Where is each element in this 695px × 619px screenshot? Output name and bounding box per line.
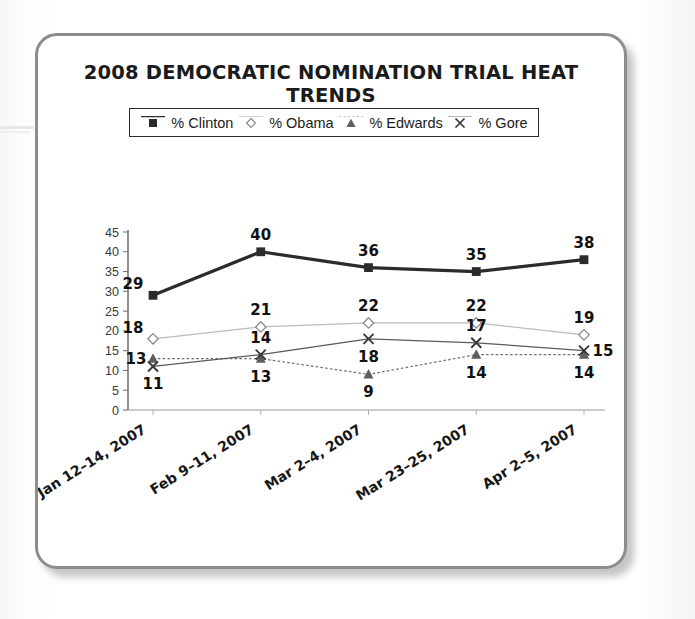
y-tick-label: 15 xyxy=(105,344,119,358)
y-tick-label: 40 xyxy=(105,245,119,259)
y-tick-label: 20 xyxy=(105,324,119,338)
y-tick-label: 10 xyxy=(105,364,119,378)
y-tick-label: 45 xyxy=(105,226,119,240)
data-value-label: 22 xyxy=(358,297,379,315)
data-point-marker xyxy=(579,330,589,340)
y-tick-label: 25 xyxy=(105,305,119,319)
data-value-label: 35 xyxy=(466,246,487,264)
series-value-labels: 1821222219 xyxy=(123,297,595,337)
scan-artifact-secondary xyxy=(0,131,30,133)
x-tick-label: Mar 2–4, 2007 xyxy=(262,421,364,493)
data-value-label: 36 xyxy=(358,242,379,260)
data-value-label: 21 xyxy=(250,301,271,319)
data-point-marker xyxy=(364,263,373,272)
data-value-label: 40 xyxy=(250,226,271,244)
plot-area: 051015202530354045Jan 12–14, 2007Feb 9–1… xyxy=(38,36,627,569)
data-point-marker xyxy=(256,247,265,256)
series-value-labels: 1114181715 xyxy=(143,317,614,394)
y-tick-label: 5 xyxy=(112,384,119,398)
data-point-marker xyxy=(580,255,589,264)
x-axis xyxy=(128,410,605,415)
data-point-marker xyxy=(471,349,481,359)
data-value-label: 19 xyxy=(574,309,595,327)
data-point-marker xyxy=(363,318,373,328)
data-value-label: 29 xyxy=(123,275,144,293)
data-value-label: 13 xyxy=(126,350,147,368)
y-tick-label: 30 xyxy=(105,285,119,299)
data-value-label: 15 xyxy=(593,342,614,360)
data-value-label: 17 xyxy=(466,317,487,335)
chart-canvas: 051015202530354045Jan 12–14, 2007Feb 9–1… xyxy=(38,36,627,569)
data-point-marker xyxy=(148,353,158,363)
data-value-label: 11 xyxy=(143,375,164,393)
data-value-label: 14 xyxy=(250,329,271,347)
x-tick-label: Mar 23–25, 2007 xyxy=(353,421,472,504)
data-point-marker xyxy=(149,291,158,300)
data-value-label: 14 xyxy=(574,364,595,382)
x-tick-label: Apr 2–5, 2007 xyxy=(479,421,579,492)
x-tick-label: Jan 12–14, 2007 xyxy=(38,421,149,501)
x-tick-labels: Jan 12–14, 2007Feb 9–11, 2007Mar 2–4, 20… xyxy=(38,421,580,504)
data-value-label: 22 xyxy=(466,297,487,315)
data-value-label: 18 xyxy=(358,348,379,366)
chart-card: 2008 DEMOCRATIC NOMINATION TRIAL HEAT TR… xyxy=(35,33,627,569)
data-point-marker xyxy=(148,334,158,344)
series-value-labels: 2940363538 xyxy=(123,226,595,294)
data-value-label: 18 xyxy=(123,319,144,337)
data-value-label: 13 xyxy=(250,368,271,386)
y-tick-label: 0 xyxy=(112,404,119,418)
scan-artifact xyxy=(0,126,34,129)
data-value-label: 14 xyxy=(466,364,487,382)
y-tick-label: 35 xyxy=(105,265,119,279)
data-point-marker xyxy=(472,267,481,276)
data-value-label: 9 xyxy=(363,383,373,401)
data-value-label: 38 xyxy=(574,234,595,252)
x-tick-label: Feb 9–11, 2007 xyxy=(147,421,256,498)
